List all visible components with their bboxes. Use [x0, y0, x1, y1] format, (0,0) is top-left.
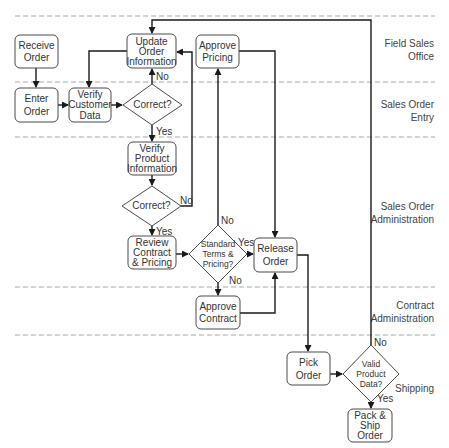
node-text: Correct?: [132, 200, 171, 211]
node-text: Order: [24, 52, 50, 63]
node-text: Terms &: [202, 249, 234, 259]
label-valid-yes: Yes: [377, 393, 393, 404]
node-release-order: Release Order: [254, 238, 297, 272]
lane-label-shipping: Shipping: [395, 383, 434, 394]
node-enter-order: Enter Order: [15, 88, 58, 122]
arrow-release-to-pick: [297, 255, 308, 351]
node-pack-ship-order: Pack & Ship Order: [348, 409, 392, 442]
lane-label-sales-order-admin: Sales Order: [381, 201, 435, 212]
node-text: Pricing: [202, 52, 233, 63]
arrow-approve-pricing-to-release: [239, 51, 275, 237]
connectors: [36, 20, 371, 408]
lane-label-sales-order-entry-2: Entry: [411, 112, 434, 123]
node-text: Standard: [201, 239, 236, 249]
order-process-flowchart: Field Sales Office Sales Order Entry Sal…: [0, 0, 449, 448]
node-verify-customer-data: Verify Customer Data: [68, 88, 112, 122]
node-text: Release: [257, 243, 294, 254]
node-text: Order: [296, 370, 322, 381]
node-text: Order: [24, 106, 50, 117]
label-correct1-no: No: [156, 71, 169, 82]
label-correct2-yes: Yes: [156, 226, 172, 237]
node-text: Data?: [360, 379, 383, 389]
node-text: Correct?: [133, 99, 172, 110]
node-text: Valid: [362, 359, 381, 369]
node-text: Information: [126, 56, 176, 67]
node-text: Contract: [199, 313, 237, 324]
node-text: Enter: [25, 93, 50, 104]
node-correct-1: Correct?: [123, 84, 182, 125]
arrow-approve-contract-to-release: [240, 273, 275, 313]
label-correct2-no: No: [180, 195, 193, 206]
node-text: Information: [127, 163, 177, 174]
label-standard-yes: Yes: [238, 237, 254, 248]
label-standard-no-down: No: [229, 275, 242, 286]
label-valid-no: No: [374, 337, 387, 348]
node-text: Pricing?: [203, 259, 234, 269]
lane-label-contract-admin-2: Administration: [371, 313, 434, 324]
label-correct1-yes: Yes: [156, 126, 172, 137]
node-text: Approve: [199, 40, 237, 51]
lane-label-contract-admin: Contract: [396, 300, 434, 311]
arrow-correct2-no-to-update: [177, 52, 192, 206]
node-text: Order: [263, 256, 289, 267]
node-update-order-information: Update Order Information: [126, 34, 176, 68]
node-text: & Pricing: [132, 257, 172, 268]
lane-label-sales-order-entry: Sales Order: [381, 99, 435, 110]
lane-label-field-sales-2: Office: [408, 51, 434, 62]
node-text: Customer: [68, 99, 112, 110]
lane-label-field-sales: Field Sales: [385, 38, 434, 49]
node-text: Product: [356, 369, 386, 379]
node-text: Order: [357, 430, 383, 441]
lane-label-sales-order-admin-2: Administration: [371, 214, 434, 225]
node-correct-2: Correct?: [122, 186, 181, 226]
label-standard-no-up: No: [221, 215, 234, 226]
node-receive-order: Receive Order: [15, 35, 58, 68]
node-text: Pick: [299, 357, 319, 368]
node-text: Data: [79, 110, 101, 121]
node-text: Receive: [18, 40, 55, 51]
node-verify-product-information: Verify Product Information: [127, 142, 177, 175]
node-review-contract-pricing: Review Contract & Pricing: [128, 236, 176, 269]
node-approve-contract: Approve Contract: [196, 296, 240, 329]
node-text: Approve: [199, 301, 237, 312]
arrow-valid-no-to-update: [152, 20, 371, 345]
node-pick-order: Pick Order: [287, 352, 330, 385]
node-approve-pricing: Approve Pricing: [196, 35, 239, 68]
